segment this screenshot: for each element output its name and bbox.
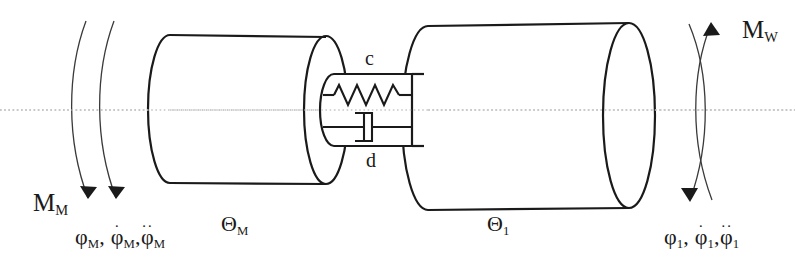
load-torque-arrow-group bbox=[689, 24, 712, 200]
motor-cylinder-top-edge bbox=[170, 35, 326, 37]
motor-angle-arrowhead bbox=[108, 186, 125, 199]
load-angular-velocity: ·φ bbox=[695, 226, 708, 248]
load-cylinder-front-face bbox=[603, 23, 655, 208]
load-angular-acceleration: ··φ bbox=[720, 226, 733, 248]
motor-inertia-label: ΘM bbox=[221, 213, 248, 235]
motor-cylinder-back-arc bbox=[148, 35, 170, 183]
motor-angular-velocity: ·φ bbox=[111, 226, 124, 248]
load-inertia-label: Θ1 bbox=[487, 213, 509, 235]
load-torque-arrowhead bbox=[703, 22, 720, 36]
torsional-drivetrain-diagram: MM φM, ·φM,··φM ΘM c d Θ1 MW φ1, ·φ1,··φ… bbox=[0, 0, 795, 266]
motor-kinematics-label: φM, ·φM,··φM bbox=[75, 226, 165, 248]
motor-angular-acceleration: ··φ bbox=[141, 226, 154, 248]
load-torque-label: MW bbox=[742, 17, 778, 42]
load-kinematics-label: φ1, ·φ1,··φ1 bbox=[664, 226, 739, 248]
motor-torque-arrowhead bbox=[80, 186, 97, 199]
spring-stiffness-label: c bbox=[365, 48, 374, 68]
load-cylinder-top-edge bbox=[428, 23, 629, 26]
motor-torque-label: MM bbox=[33, 190, 68, 215]
load-angle-arrowhead bbox=[681, 188, 698, 202]
motor-cylinder-bottom-edge bbox=[170, 183, 326, 184]
load-cylinder-bottom-edge bbox=[428, 208, 629, 210]
load-inertia-cylinder bbox=[402, 23, 655, 210]
damping-coefficient-label: d bbox=[366, 150, 376, 170]
